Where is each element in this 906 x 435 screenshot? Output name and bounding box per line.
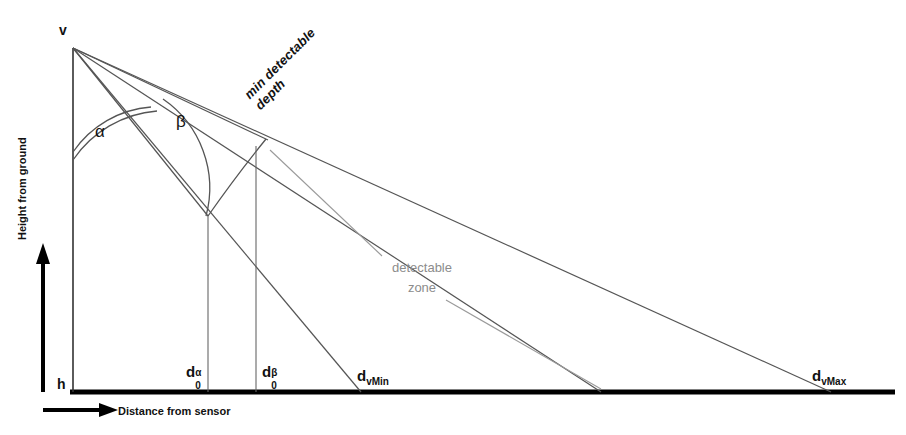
detectable-zone-line-1: detectable [374,258,470,278]
d0-beta-label: dβ0 [262,363,278,380]
apex-label-v: v [59,22,67,38]
d0-beta-base: d [262,363,271,380]
x-axis-arrow [43,403,118,417]
d0-beta-subscript: 0 [271,380,277,391]
dvmin-subscript: vMin [366,376,389,387]
d0-alpha-superscript: α [195,367,201,378]
y-axis-label: Height from ground [16,137,28,240]
d0-alpha-base: d [186,363,195,380]
leader-line-upper [270,150,382,256]
sensor-geometry-diagram [0,0,906,435]
detectable-zone-label: detectable zone [374,258,470,298]
leader-line-lower [446,300,601,389]
angle-alpha-label: α [95,122,105,142]
dvmax-base: d [812,367,821,384]
y-axis-arrow [36,243,50,392]
min-detectable-depth-curve [208,139,266,216]
beta-arc [163,99,210,216]
ray-to-dvmin [73,48,361,392]
x-axis-label: Distance from sensor [118,405,230,417]
detectable-zone-line-2: zone [374,278,470,298]
d0-beta-superscript: β [271,367,277,378]
dvmax-label: dvMax [812,367,846,387]
d0-alpha-label: dα0 [186,363,202,380]
ray-to-dvmax [73,48,831,392]
height-marker-label: h [57,376,66,392]
dvmin-base: d [357,367,366,384]
alpha-arc-outer [73,111,157,160]
dvmax-subscript: vMax [821,376,846,387]
dvmin-label: dvMin [357,367,389,387]
ray-to-d0-alpha [73,48,208,216]
angle-beta-label: β [176,112,186,132]
ray-to-ground-mid [73,48,601,392]
d0-alpha-subscript: 0 [195,380,201,391]
